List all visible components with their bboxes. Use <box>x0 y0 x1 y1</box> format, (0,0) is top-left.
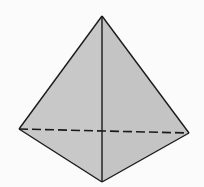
left-face <box>19 16 102 182</box>
diagram-canvas <box>0 0 204 187</box>
tetrahedron-figure <box>0 0 204 187</box>
